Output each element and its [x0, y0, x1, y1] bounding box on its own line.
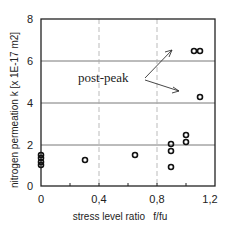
x-tick-label: 1,2 — [202, 193, 217, 205]
y-axis-label: nitrogen permeation k [x 1E-17 m2] — [9, 32, 20, 188]
plot-frame — [41, 19, 215, 186]
y-tick-label: 0 — [27, 180, 33, 192]
post-peak-annotation: post-peak — [78, 70, 129, 85]
y-tick-label: 4 — [27, 97, 33, 109]
x-tick-label: 0,8 — [149, 193, 164, 205]
x-tick-label: 0,4 — [91, 193, 106, 205]
x-axis-label: stress level ratio f/fu — [73, 211, 167, 222]
annotation-arrows — [145, 50, 179, 93]
scatter-chart: 0 0,4 0,8 1,2 0 2 4 6 8 stress level rat… — [0, 0, 230, 231]
grid — [41, 19, 215, 186]
y-tick-label: 2 — [27, 139, 33, 151]
x-tick-label: 0 — [38, 193, 44, 205]
y-tick-label: 8 — [27, 13, 33, 25]
y-tick-label: 6 — [27, 55, 33, 67]
data-points — [39, 49, 203, 170]
